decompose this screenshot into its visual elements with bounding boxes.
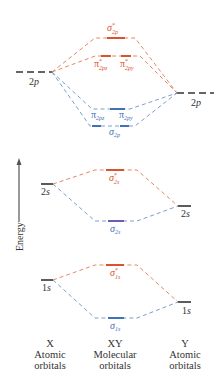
label-X-2p: 2p <box>29 76 39 87</box>
correlation-lines-2p-bonding <box>52 72 177 126</box>
column-XY-line1: Molecular <box>93 349 137 360</box>
label-pi-2py: π2py <box>119 109 133 121</box>
label-sigma-2p: σ2p <box>109 126 120 138</box>
correlation-line-1s-bonding <box>53 280 178 318</box>
label-X-2s: 2s <box>41 186 50 197</box>
label-sigma-star-2p: σ*2p <box>107 22 118 35</box>
label-Y-2p: 2p <box>191 97 201 108</box>
column-XY-name: XY <box>107 338 123 349</box>
label-Y-2s: 2s <box>181 208 190 219</box>
column-Y-line1: Atomic <box>169 349 201 360</box>
correlation-lines-2p-antibonding <box>52 38 177 93</box>
label-pi-2pz: π2pz <box>91 109 105 121</box>
label-sigma-star-2s: σ*2s <box>109 172 120 185</box>
energy-axis <box>17 158 22 222</box>
label-pi-star-2pz: π*2pz <box>94 58 108 71</box>
column-Y-line2: orbitals <box>169 360 201 371</box>
column-X: X Atomic orbitals <box>34 338 66 371</box>
label-sigma-2s: σ2s <box>110 223 121 235</box>
column-X-name: X <box>46 338 54 349</box>
arrow-up-icon <box>17 158 22 165</box>
energy-axis-label: Energy <box>14 222 25 251</box>
column-X-line2: orbitals <box>34 360 66 371</box>
label-Y-1s: 1s <box>182 305 191 316</box>
mo-diagram: 2p 2p σ*2p π*2pz π*2py π2pz π2py σ2p Ene… <box>0 0 221 392</box>
column-Y: Y Atomic orbitals <box>169 338 201 371</box>
label-pi-star-2py: π*2py <box>120 58 134 71</box>
column-Y-name: Y <box>181 338 189 349</box>
label-sigma-1s: σ1s <box>110 320 121 332</box>
label-sigma-star-1s: σ*1s <box>110 267 121 280</box>
column-X-line1: Atomic <box>34 349 66 360</box>
label-X-1s: 1s <box>42 282 51 293</box>
column-XY-line2: orbitals <box>99 360 131 371</box>
column-XY: XY Molecular orbitals <box>93 338 137 371</box>
